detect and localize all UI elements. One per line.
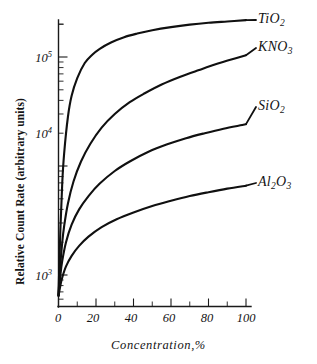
leader-al2o3 [246,183,256,186]
series-label-tio2: TiO2 [258,12,285,26]
curve-label-leaders [246,20,256,186]
y-axis-title: Relative Count Rate (arbitrary units) [14,98,26,285]
x-tick-label-20: 20 [80,312,106,325]
y-tick-label-1e5: 105 [14,50,52,65]
x-tick-label-60: 60 [156,312,182,325]
x-tick-label-80: 80 [194,312,220,325]
series-label-kno3: KNO3 [258,40,293,54]
x-tick-label-40: 40 [118,312,144,325]
x-axis-title: Concentration,% [0,338,317,353]
series-label-al2o3: Al2O3 [258,175,292,189]
chart-figure: 105 104 103 0 20 40 60 80 100 Concentrat… [0,0,317,364]
x-tick-label-100: 100 [231,312,261,325]
curve-kno3 [59,55,247,295]
leader-kno3 [246,48,256,55]
curve-al2o3 [59,186,247,296]
data-curves [59,20,247,296]
leader-sio2 [246,107,256,124]
x-axis-ticks [59,299,247,307]
x-tick-label-0: 0 [45,312,71,325]
curve-tio2 [59,20,247,295]
series-label-sio2: SiO2 [258,99,285,113]
